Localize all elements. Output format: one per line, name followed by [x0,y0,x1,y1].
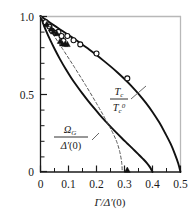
data-point-circle-open-5 [59,33,64,38]
omega-denominator-paren: (0) [69,140,82,152]
omega-denominator: Δ′(0) [60,140,82,152]
x-tick-label-2: 0.1 [61,178,76,190]
omega-denominator-delta: Δ [60,140,67,151]
x-axis-title-paren: (0) [113,196,126,209]
x-tick-label-5: 0.4 [145,178,160,190]
figure-container: 1.0 0.5 0 0 0.1 0.2 0.3 0.4 0.5 Γ/Δ′(0) … [0,0,193,214]
data-point-circle-open-8 [71,38,76,43]
x-axis-title: Γ/Δ′(0) [93,196,125,209]
data-point-circle-open-9 [78,42,83,47]
phase-diagram-plot: 1.0 0.5 0 0 0.1 0.2 0.3 0.4 0.5 Γ/Δ′(0) … [0,0,193,214]
data-point-circle-open-11 [125,76,130,81]
tc-denominator-superscript: 0 [122,102,126,110]
x-tick-label-4: 0.3 [117,178,132,190]
x-tick-label-3: 0.2 [89,178,104,190]
x-axis-title-delta: Δ [103,196,110,208]
y-tick-label-2: 0.5 [20,89,35,101]
x-tick-label-1: 0 [38,178,44,190]
data-point-circle-open-7 [65,33,70,38]
data-point-circle-open-10 [94,51,99,56]
omega-numerator-subscript: G [71,129,76,137]
y-tick-label-1: 1.0 [20,11,35,23]
x-tick-label-6: 0.5 [173,178,188,190]
y-tick-label-3: 0 [28,166,34,178]
